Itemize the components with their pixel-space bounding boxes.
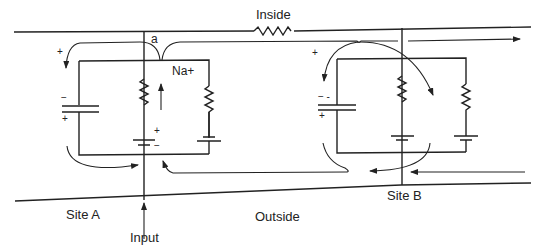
- input-label: Input: [130, 230, 159, 245]
- node-a-label: a: [151, 32, 158, 46]
- sodium-label: Na+: [172, 64, 194, 78]
- site-a-flow-plus-sign: +: [57, 46, 63, 57]
- site-b-flow-plus-sign: +: [312, 47, 318, 58]
- site-a-battery-minus-sign: −: [154, 140, 160, 151]
- site-a-capacitor-plus-sign: +: [62, 113, 68, 124]
- site-b-capacitor-plus-sign: +: [319, 110, 325, 121]
- inside-label: Inside: [256, 7, 291, 22]
- site-b-capacitor-minus-sign: − -: [318, 91, 330, 102]
- inside-resistor-icon: [254, 27, 291, 35]
- site-b-label: Site B: [387, 188, 422, 203]
- site-b-circuit: [318, 58, 478, 153]
- inside-line: [14, 27, 531, 35]
- outside-label: Outside: [255, 209, 300, 224]
- membrane-circuit-diagram: Inside a Na+ Site A Outside Site B Input…: [0, 0, 546, 249]
- site-a-circuit: [62, 60, 221, 155]
- site-a-capacitor-minus-sign: −: [61, 92, 67, 103]
- site-b-shunt-battery-icon: [454, 136, 478, 140]
- site-b-shunt-resistor-icon: [462, 84, 470, 136]
- outside-line: [15, 183, 531, 201]
- site-a-shunt-battery-icon: [197, 137, 221, 141]
- site-a-label: Site A: [66, 207, 100, 222]
- site-a-capacitor-icon: [62, 106, 99, 112]
- site-a-battery-plus-sign: +: [154, 125, 160, 136]
